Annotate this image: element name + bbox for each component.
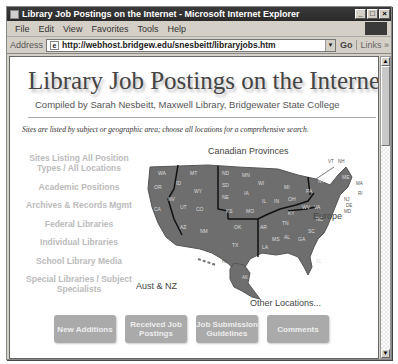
menu-favorites[interactable]: Favorites bbox=[91, 24, 128, 34]
ie-icon bbox=[10, 10, 19, 19]
svg-text:NM: NM bbox=[200, 228, 208, 234]
window-title: Library Job Postings on the Internet - M… bbox=[22, 9, 355, 19]
scroll-up-icon[interactable]: ▲ bbox=[381, 57, 390, 66]
svg-text:KS: KS bbox=[226, 208, 233, 214]
svg-text:IA: IA bbox=[244, 190, 249, 196]
svg-text:GA: GA bbox=[298, 236, 306, 242]
svg-text:MD: MD bbox=[344, 209, 352, 214]
svg-text:AR: AR bbox=[260, 224, 267, 230]
svg-text:OH: OH bbox=[288, 196, 296, 202]
svg-text:NH: NH bbox=[338, 159, 345, 164]
instruction-note: Sites are listed by subject or geographi… bbox=[22, 125, 309, 134]
svg-text:CO: CO bbox=[196, 206, 204, 212]
svg-text:PA: PA bbox=[306, 188, 313, 194]
svg-text:VT: VT bbox=[328, 159, 334, 164]
svg-text:MN: MN bbox=[242, 172, 250, 178]
svg-text:SC: SC bbox=[308, 228, 315, 234]
svg-text:AK: AK bbox=[242, 275, 248, 280]
menu-edit[interactable]: Edit bbox=[39, 24, 55, 34]
scroll-thumb[interactable] bbox=[381, 66, 390, 146]
menu-tools[interactable]: Tools bbox=[137, 24, 158, 34]
address-input[interactable]: e http://webhost.bridgew.edu/snesbeitt/l… bbox=[46, 39, 336, 52]
category-all-positions[interactable]: Sites Listing All Position Types / All L… bbox=[24, 153, 134, 173]
svg-text:TN: TN bbox=[282, 220, 289, 226]
svg-text:IL: IL bbox=[262, 198, 266, 204]
svg-text:CA: CA bbox=[154, 206, 162, 212]
svg-text:HI: HI bbox=[222, 259, 227, 264]
page-content: Library Job Postings on the Internet Com… bbox=[9, 56, 379, 359]
page-title: Library Job Postings on the Internet bbox=[28, 67, 379, 95]
svg-text:NJ: NJ bbox=[344, 197, 350, 202]
page-icon: e bbox=[50, 41, 59, 50]
svg-text:DE: DE bbox=[346, 203, 352, 208]
category-federal[interactable]: Federal Libraries bbox=[24, 219, 134, 229]
svg-text:TX: TX bbox=[232, 242, 239, 248]
links-button[interactable]: Links » bbox=[356, 40, 389, 50]
minimize-button[interactable]: _ bbox=[355, 9, 366, 19]
browser-window: Library Job Postings on the Internet - M… bbox=[6, 6, 392, 360]
svg-text:WY: WY bbox=[194, 188, 203, 194]
bottom-nav: New Additions Received Job Postings Job … bbox=[54, 315, 338, 343]
windows-logo-icon bbox=[365, 22, 387, 35]
category-academic[interactable]: Academic Positions bbox=[24, 182, 134, 192]
svg-text:SD: SD bbox=[222, 182, 229, 188]
svg-text:MT: MT bbox=[190, 170, 197, 176]
title-bar: Library Job Postings on the Internet - M… bbox=[7, 7, 391, 21]
submission-guidelines-button[interactable]: Job Submission Guidelines bbox=[196, 315, 258, 343]
go-button[interactable]: Go bbox=[340, 40, 353, 50]
svg-text:WA: WA bbox=[158, 170, 167, 176]
category-special[interactable]: Special Libraries / Subject Specialists bbox=[24, 274, 134, 294]
svg-text:WV: WV bbox=[302, 204, 311, 210]
svg-text:OK: OK bbox=[234, 224, 242, 230]
page-subtitle: Compiled by Sarah Nesbeitt, Maxwell Libr… bbox=[35, 99, 340, 110]
svg-text:KY: KY bbox=[288, 210, 295, 216]
svg-text:ND: ND bbox=[222, 170, 230, 176]
svg-text:VA: VA bbox=[314, 204, 321, 210]
svg-text:MS: MS bbox=[272, 236, 280, 242]
map-label-other[interactable]: Other Locations... bbox=[250, 298, 321, 308]
category-school-media[interactable]: School Library Media bbox=[24, 256, 134, 266]
close-button[interactable]: × bbox=[379, 9, 390, 19]
svg-text:MI: MI bbox=[284, 184, 290, 190]
svg-text:NE: NE bbox=[222, 194, 230, 200]
svg-text:MA: MA bbox=[356, 181, 363, 186]
menu-view[interactable]: View bbox=[63, 24, 82, 34]
address-bar: Address e http://webhost.bridgew.edu/sne… bbox=[7, 37, 391, 54]
map-label-aust-nz[interactable]: Aust & NZ bbox=[136, 281, 177, 291]
address-url[interactable]: http://webhost.bridgew.edu/snesbeitt/lib… bbox=[62, 40, 325, 50]
svg-text:OR: OR bbox=[154, 184, 162, 190]
svg-text:NY: NY bbox=[318, 178, 326, 184]
svg-text:MO: MO bbox=[246, 208, 254, 214]
map-label-canada[interactable]: Canadian Provinces bbox=[208, 146, 289, 156]
svg-text:AZ: AZ bbox=[180, 224, 186, 230]
address-label: Address bbox=[10, 40, 43, 50]
svg-text:NV: NV bbox=[168, 196, 176, 202]
divider bbox=[28, 117, 376, 118]
svg-text:IN: IN bbox=[274, 198, 279, 204]
new-additions-button[interactable]: New Additions bbox=[54, 315, 116, 343]
svg-text:UT: UT bbox=[180, 204, 187, 210]
svg-text:AL: AL bbox=[284, 234, 290, 240]
category-archives[interactable]: Archives & Records Mgmt bbox=[24, 200, 134, 210]
address-dropdown-icon[interactable]: ▼ bbox=[325, 40, 335, 51]
comments-button[interactable]: Comments bbox=[267, 315, 329, 343]
svg-text:ID: ID bbox=[176, 180, 181, 186]
menu-file[interactable]: File bbox=[15, 24, 30, 34]
menu-help[interactable]: Help bbox=[167, 24, 186, 34]
us-regions-map[interactable]: WAORCA IDMTWY NVUTCO AZNMND SDNEKS OKTXM… bbox=[138, 149, 378, 309]
maximize-button[interactable]: □ bbox=[367, 9, 378, 19]
svg-text:LA: LA bbox=[262, 244, 269, 250]
received-postings-button[interactable]: Received Job Postings bbox=[125, 315, 187, 343]
category-links: Sites Listing All Position Types / All L… bbox=[24, 153, 134, 303]
vertical-scrollbar[interactable]: ▲ ▼ bbox=[380, 56, 391, 359]
scroll-down-icon[interactable]: ▼ bbox=[381, 349, 390, 358]
svg-text:WI: WI bbox=[258, 180, 264, 186]
svg-text:ME: ME bbox=[342, 174, 350, 180]
map-label-europe[interactable]: Europe bbox=[313, 211, 342, 221]
svg-text:FL: FL bbox=[316, 258, 322, 264]
menu-bar: File Edit View Favorites Tools Help bbox=[7, 21, 391, 37]
category-individual[interactable]: Individual Libraries bbox=[24, 237, 134, 247]
svg-text:RI: RI bbox=[358, 191, 363, 196]
